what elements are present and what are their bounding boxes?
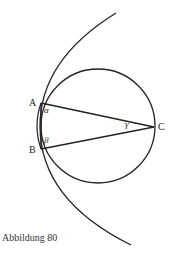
point-label-b: B	[29, 145, 36, 155]
geometry-diagram	[0, 0, 176, 266]
point-label-c: C	[158, 122, 165, 132]
point-label-a: A	[29, 98, 36, 108]
circumcircle	[41, 69, 155, 183]
figure-caption: Abbildung 80	[2, 232, 57, 243]
angle-alpha: α	[44, 106, 49, 115]
angle-beta: β	[44, 136, 48, 145]
outer-arc	[40, 13, 131, 245]
segment-ac	[41, 103, 154, 127]
angle-gamma: γ	[125, 120, 129, 129]
segment-bc	[41, 127, 154, 149]
